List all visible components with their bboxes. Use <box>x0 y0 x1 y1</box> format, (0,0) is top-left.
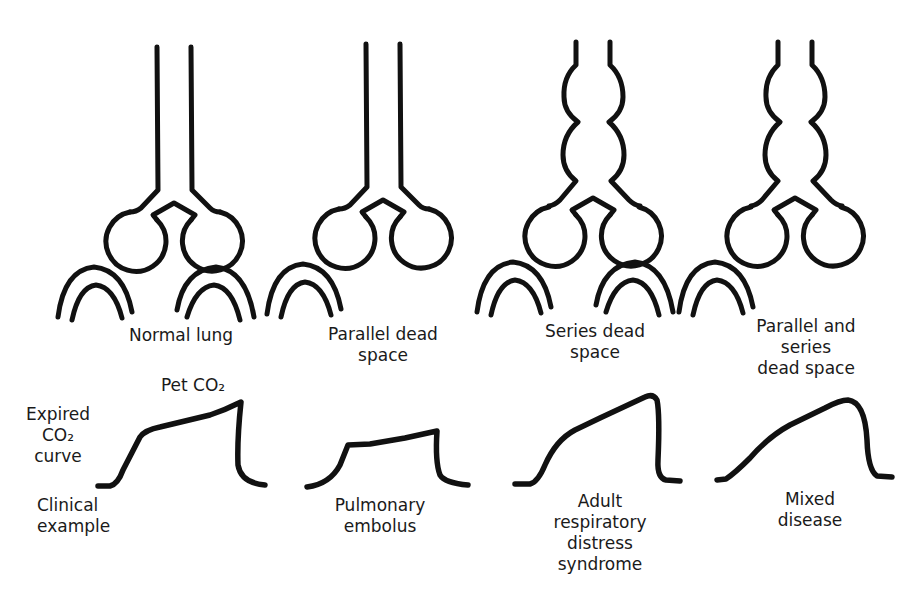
parallel-series-dead-space-schematic <box>679 42 863 315</box>
parallel-dead-space-schematic <box>267 44 451 317</box>
capnogram-pulmonary-embolus <box>307 431 468 487</box>
expired-co2-curve-label: Expired CO₂ curve <box>20 404 96 467</box>
clinical-example-label: Clinical example <box>37 495 110 537</box>
panel-title-series-dead-space: Series dead space <box>525 321 665 363</box>
title-line: space <box>525 342 665 363</box>
example-line: Pulmonary <box>320 495 440 516</box>
pet-co2-label: Pet CO₂ <box>148 375 238 396</box>
row-label-line: curve <box>20 446 96 467</box>
title-line: space <box>313 345 453 366</box>
example-line: syndrome <box>540 554 660 575</box>
series-dead-space-schematic <box>477 42 673 315</box>
panel-title-normal-lung: Normal lung <box>107 325 255 346</box>
example-line: disease <box>760 510 860 531</box>
row-label-line: Clinical <box>37 495 110 516</box>
example-line: distress <box>540 533 660 554</box>
title-line: Parallel and <box>740 316 872 337</box>
title-line: series <box>740 337 872 358</box>
title-line: Parallel dead <box>313 324 453 345</box>
normal-lung-schematic <box>58 47 254 320</box>
clinical-example-pulmonary-embolus: Pulmonary embolus <box>320 495 440 537</box>
clinical-example-ards: Adult respiratory distress syndrome <box>540 491 660 575</box>
capnogram-ards <box>515 396 680 484</box>
title-line: dead space <box>740 358 872 379</box>
example-line: embolus <box>320 516 440 537</box>
example-line: respiratory <box>540 512 660 533</box>
row-label-line: CO₂ <box>20 425 96 446</box>
example-line: Adult <box>540 491 660 512</box>
clinical-example-mixed-disease: Mixed disease <box>760 489 860 531</box>
panel-title-parallel-series-dead-space: Parallel and series dead space <box>740 316 872 379</box>
pet-co2-text: Pet CO₂ <box>161 375 225 395</box>
panel-title-parallel-dead-space: Parallel dead space <box>313 324 453 366</box>
row-label-line: example <box>37 516 110 537</box>
title-line: Normal lung <box>107 325 255 346</box>
title-line: Series dead <box>525 321 665 342</box>
example-line: Mixed <box>760 489 860 510</box>
row-label-line: Expired <box>20 404 96 425</box>
capnogram-normal <box>98 402 265 486</box>
capnogram-mixed-disease <box>717 400 892 480</box>
